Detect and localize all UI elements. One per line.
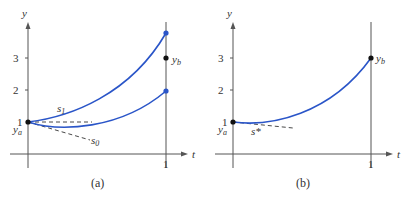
shooting-method-figure: y t 3 2 1 1 ya yb s1 s0 (a) y t 3 2 1 1 [0, 0, 415, 199]
t-axis-label: t [397, 148, 401, 160]
panel-b: y t 3 2 1 1 ya yb s* (b) [215, 7, 401, 190]
curve-s-star [233, 58, 371, 123]
caption-a: (a) [91, 176, 104, 190]
yb-point [368, 55, 373, 60]
t-axis-label: t [192, 148, 196, 160]
s1-endpoint [163, 30, 168, 35]
y-tick-label-3: 3 [218, 52, 224, 64]
yb-point [163, 55, 168, 60]
y-tick-label-2: 2 [13, 84, 19, 96]
t-axis-arrow-icon [181, 152, 188, 157]
t-tick-label-1: 1 [163, 158, 169, 170]
y-axis-arrow-icon [26, 22, 31, 29]
yb-label: yb [375, 52, 385, 66]
s0-endpoint [163, 88, 168, 93]
ya-point [25, 119, 30, 124]
t-axis-arrow-icon [386, 152, 393, 157]
y-axis-arrow-icon [231, 22, 236, 29]
panel-a: y t 3 2 1 1 ya yb s1 s0 (a) [10, 7, 196, 190]
y-axis-label: y [226, 7, 232, 19]
s0-label: s0 [91, 134, 99, 148]
y-tick-label-3: 3 [13, 52, 19, 64]
caption-b: (b) [296, 176, 310, 190]
curve-s0 [28, 91, 166, 127]
ya-point [230, 119, 235, 124]
y-axis-label: y [21, 7, 27, 19]
yb-label: yb [171, 53, 181, 67]
curve-s1 [28, 33, 166, 122]
y-tick-label-2: 2 [218, 84, 224, 96]
s1-label: s1 [57, 102, 65, 116]
s-star-label: s* [251, 125, 261, 137]
t-tick-label-1: 1 [368, 158, 374, 170]
